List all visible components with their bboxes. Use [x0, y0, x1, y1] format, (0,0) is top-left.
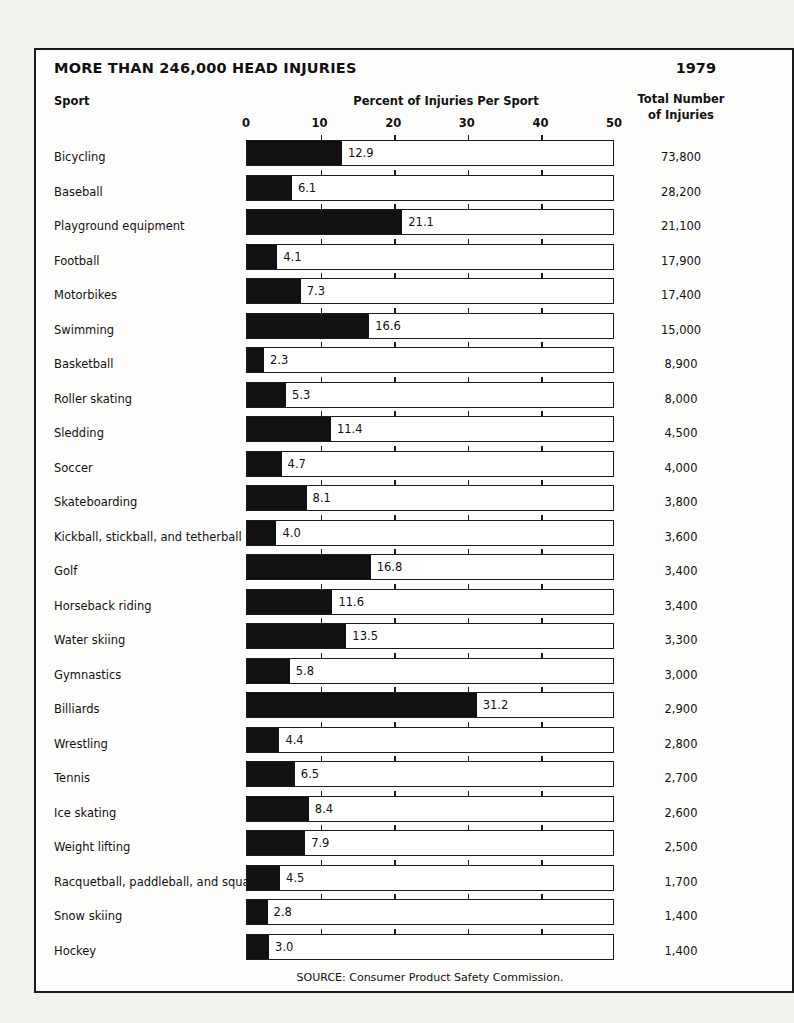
- bar-fill: [247, 831, 305, 855]
- axis-tick-mark: [468, 480, 469, 486]
- axis-tick-mark: [468, 239, 469, 245]
- column-header-total-line1: Total Number: [622, 92, 740, 108]
- axis-tick-mark: [468, 515, 469, 521]
- bar-value-label: 7.3: [307, 284, 325, 298]
- axis-tick-mark: [468, 204, 469, 210]
- total-injuries-value: 2,500: [622, 840, 740, 854]
- category-label: Basketball: [54, 357, 114, 371]
- bar-value-label: 8.1: [313, 491, 331, 505]
- column-header-percent: Percent of Injuries Per Sport: [246, 94, 646, 108]
- total-injuries-value: 4,500: [622, 426, 740, 440]
- bar-fill: [247, 693, 477, 717]
- category-label: Water skiing: [54, 633, 125, 647]
- axis-tick-mark: [541, 653, 542, 659]
- chart-row: Sledding11.44,500: [36, 416, 740, 451]
- axis-tick-mark: [321, 584, 322, 590]
- axis-tick-mark: [394, 687, 395, 693]
- axis-tick-mark: [541, 722, 542, 728]
- category-label: Racquetball, paddleball, and squash: [54, 875, 263, 889]
- total-injuries-value: 3,600: [622, 530, 740, 544]
- column-header-sport: Sport: [54, 94, 90, 108]
- axis-tick-label: 50: [606, 116, 622, 130]
- axis-tick-label: 20: [385, 116, 401, 130]
- axis-tick-mark: [394, 584, 395, 590]
- bar-value-label: 11.4: [337, 422, 363, 436]
- axis-tick-mark: [321, 653, 322, 659]
- axis-tick-mark: [468, 170, 469, 176]
- chart-row: Weight lifting7.92,500: [36, 830, 740, 865]
- bar-value-label: 3.0: [275, 940, 293, 954]
- axis-tick-mark: [321, 825, 322, 831]
- axis-tick-mark: [394, 170, 395, 176]
- chart-frame: MORE THAN 246,000 HEAD INJURIES 1979 Spo…: [34, 48, 794, 993]
- total-injuries-value: 17,400: [622, 288, 740, 302]
- axis-tick-mark: [468, 618, 469, 624]
- axis-tick-mark: [541, 135, 542, 141]
- chart-row: Motorbikes7.317,400: [36, 278, 740, 313]
- bar-track: 4.7: [246, 451, 614, 477]
- bar-fill: [247, 590, 332, 614]
- axis-tick-mark: [321, 894, 322, 900]
- axis-tick-mark: [321, 929, 322, 935]
- bar-track: 13.5: [246, 623, 614, 649]
- axis-tick-mark: [394, 411, 395, 417]
- axis-tick-mark: [468, 687, 469, 693]
- category-label: Tennis: [54, 771, 90, 785]
- axis-tick-mark: [468, 722, 469, 728]
- axis-tick-label: 0: [242, 116, 250, 130]
- bar-value-label: 2.8: [274, 905, 292, 919]
- category-label: Ice skating: [54, 806, 116, 820]
- bar-track: 5.8: [246, 658, 614, 684]
- chart-row: Playground equipment21.121,100: [36, 209, 740, 244]
- bar-track: 6.1: [246, 175, 614, 201]
- total-injuries-value: 2,800: [622, 737, 740, 751]
- category-label: Kickball, stickball, and tetherball: [54, 530, 242, 544]
- total-injuries-value: 1,400: [622, 944, 740, 958]
- chart-row: Skateboarding8.13,800: [36, 485, 740, 520]
- axis-tick-mark: [541, 756, 542, 762]
- axis-tick-label: 10: [312, 116, 328, 130]
- category-label: Wrestling: [54, 737, 108, 751]
- total-injuries-value: 15,000: [622, 323, 740, 337]
- bar-track: 4.4: [246, 727, 614, 753]
- axis-tick-mark: [468, 894, 469, 900]
- total-injuries-value: 21,100: [622, 219, 740, 233]
- axis-tick-mark: [321, 722, 322, 728]
- bar-track: 7.3: [246, 278, 614, 304]
- axis-tick-mark: [541, 411, 542, 417]
- total-injuries-value: 17,900: [622, 254, 740, 268]
- axis-tick-mark: [468, 825, 469, 831]
- bar-value-label: 6.5: [301, 767, 319, 781]
- bar-track: 2.3: [246, 347, 614, 373]
- total-injuries-value: 3,400: [622, 599, 740, 613]
- category-label: Football: [54, 254, 100, 268]
- axis-tick-mark: [321, 618, 322, 624]
- axis-tick-mark: [394, 791, 395, 797]
- chart-row: Baseball6.128,200: [36, 175, 740, 210]
- bar-track: 4.1: [246, 244, 614, 270]
- bar-fill: [247, 417, 331, 441]
- bar-value-label: 2.3: [270, 353, 288, 367]
- bar-value-label: 4.5: [286, 871, 304, 885]
- axis-tick-mark: [321, 170, 322, 176]
- chart-row: Soccer4.74,000: [36, 451, 740, 486]
- bar-track: 4.5: [246, 865, 614, 891]
- axis-tick-mark: [394, 446, 395, 452]
- axis-tick-mark: [394, 756, 395, 762]
- total-injuries-value: 3,000: [622, 668, 740, 682]
- axis-tick-mark: [394, 515, 395, 521]
- bar-fill: [247, 555, 371, 579]
- category-label: Snow skiing: [54, 909, 122, 923]
- bar-fill: [247, 348, 264, 372]
- chart-row: Snow skiing2.81,400: [36, 899, 740, 934]
- axis-tick-mark: [541, 825, 542, 831]
- chart-row: Tennis6.52,700: [36, 761, 740, 796]
- axis-tick-mark: [394, 549, 395, 555]
- axis-tick-mark: [541, 308, 542, 314]
- axis-tick-mark: [468, 135, 469, 141]
- bar-fill: [247, 521, 276, 545]
- bar-fill: [247, 797, 309, 821]
- category-label: Sledding: [54, 426, 104, 440]
- bar-track: 6.5: [246, 761, 614, 787]
- axis-tick-mark: [321, 135, 322, 141]
